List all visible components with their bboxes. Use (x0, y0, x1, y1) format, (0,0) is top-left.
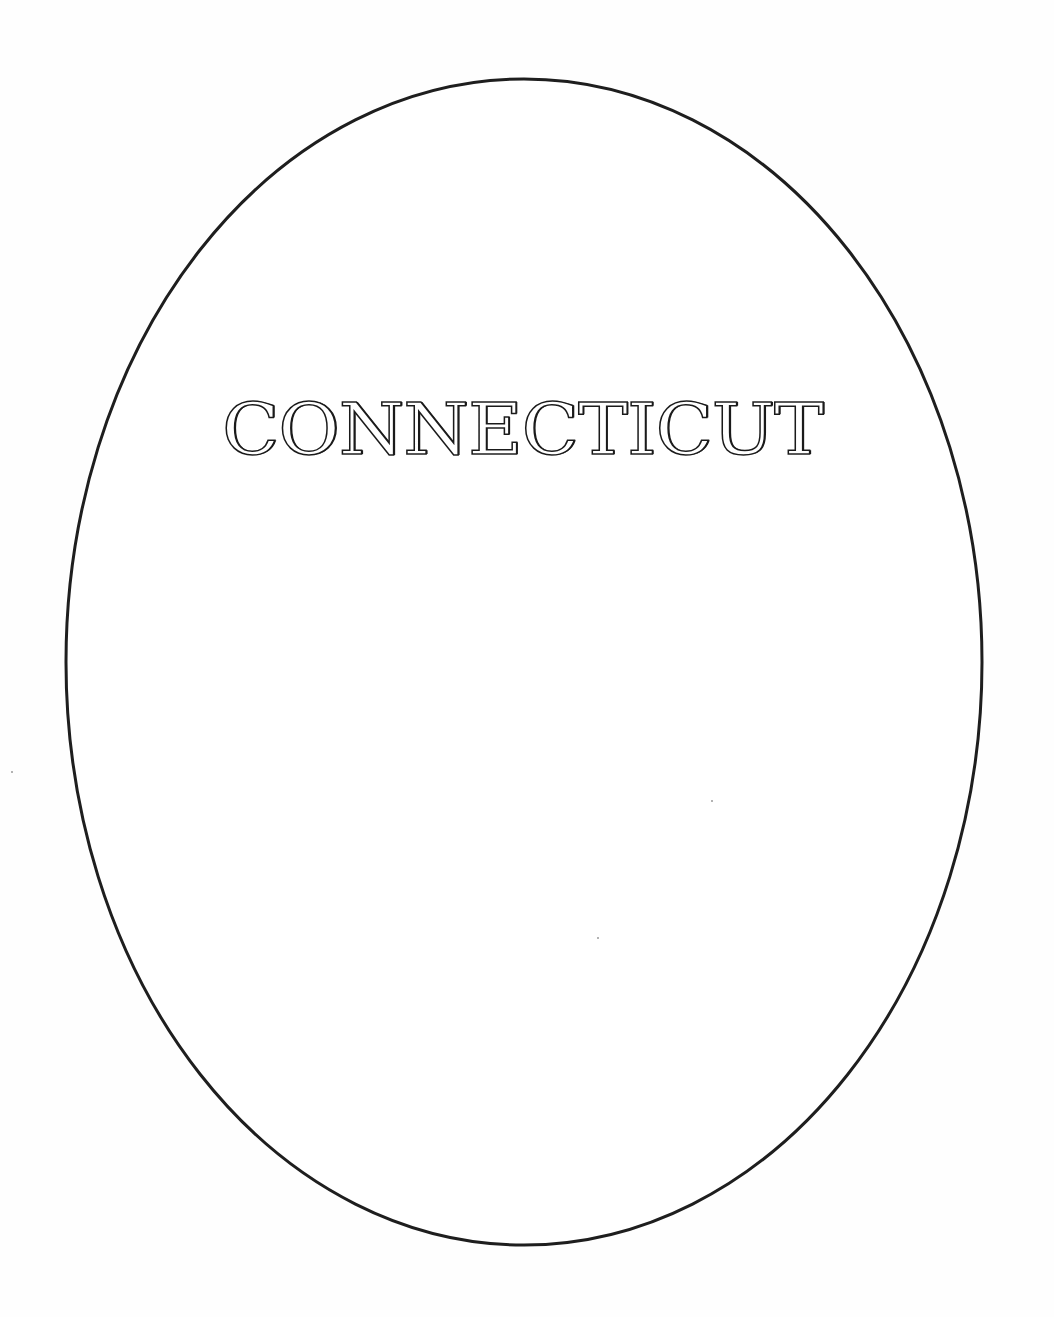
paper-speck (711, 800, 713, 802)
oval-frame (0, 0, 1054, 1317)
state-title: CONNECTICUT (222, 388, 813, 471)
page: CONNECTICUT (0, 0, 1054, 1317)
paper-speck (11, 771, 13, 773)
oval-outline (66, 79, 982, 1245)
paper-speck (597, 937, 599, 939)
